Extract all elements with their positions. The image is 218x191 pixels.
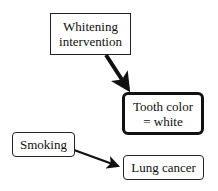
node-lung-cancer: Lung cancer: [123, 155, 204, 180]
node-whitening-intervention: Whitening intervention: [50, 13, 131, 55]
node-tooth-color: Tooth color = white: [122, 92, 204, 135]
node-label-line: = white: [133, 114, 193, 129]
node-label-line: Tooth color: [133, 99, 193, 114]
node-label-line: Whitening: [59, 19, 122, 34]
node-label: Smoking: [20, 137, 67, 152]
arrow-whitening-to-tooth: [106, 55, 128, 89]
node-smoking: Smoking: [12, 132, 75, 157]
node-label-line: intervention: [59, 34, 122, 49]
node-label: Lung cancer: [131, 160, 196, 175]
arrow-smoking-to-lung: [74, 150, 118, 166]
